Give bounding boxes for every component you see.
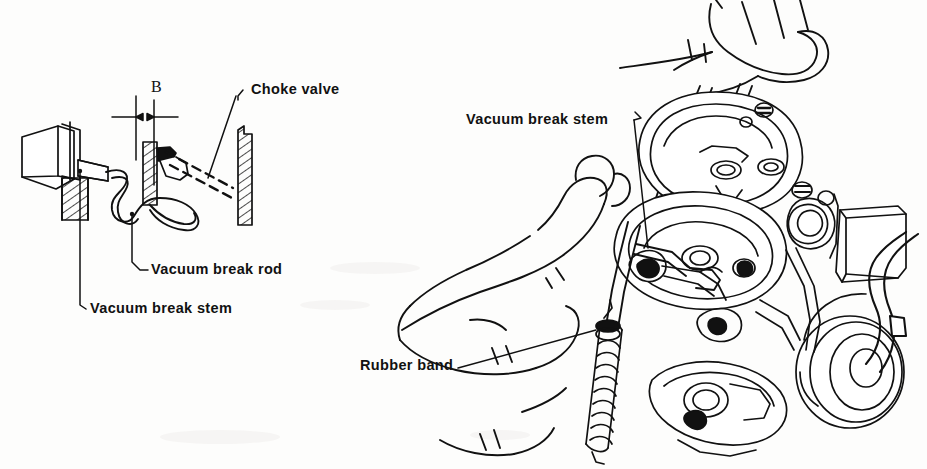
leader-rubber-band — [458, 330, 596, 368]
upper-hand — [620, 0, 828, 94]
vacuum-break-rod-label: Vacuum break rod — [151, 262, 282, 277]
carburetor-base-plate — [649, 362, 786, 456]
choke-lever-tip — [157, 147, 188, 180]
rubber-band-label: Rubber band — [360, 358, 453, 373]
mount-wall-hatched — [62, 178, 88, 220]
choke-valve-wall-right — [238, 126, 252, 225]
figure-page: B Choke valve Vacuum break rod Vacuum br… — [0, 0, 927, 469]
vacuum-break-stem-label-left: Vacuum break stem — [90, 301, 232, 316]
choke-valve-label: Choke valve — [251, 82, 339, 97]
illustration-canvas — [0, 0, 927, 469]
rubber-band-spring — [586, 300, 622, 464]
carburetor-lower-body — [614, 192, 786, 310]
cam-pulley-assembly — [787, 182, 838, 258]
leader-vacuum-break-rod — [130, 212, 148, 270]
dimension-b-label: B — [151, 79, 162, 95]
choke-valve-blade-left — [143, 142, 157, 205]
lower-hand — [398, 156, 630, 456]
vacuum-break-stem-label-right: Vacuum break stem — [466, 112, 608, 127]
